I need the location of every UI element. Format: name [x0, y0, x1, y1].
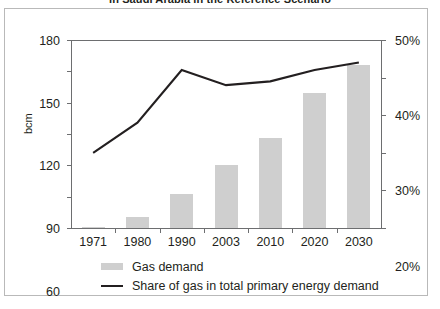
share-of-gas-line	[93, 63, 359, 153]
x-axis-tick-label: 2030	[345, 235, 373, 249]
chart-title: in Saudi Arabia in the Reference Scenari…	[0, 0, 440, 6]
legend-item-gas-demand: Gas demand	[101, 257, 401, 276]
plot-area: 0306090120150180 0%10%20%30%40%50% 19711…	[71, 40, 381, 228]
x-axis-tick-label: 2003	[212, 235, 240, 249]
x-axis-tick	[115, 228, 116, 233]
x-axis-line	[71, 228, 381, 229]
legend-label-share-of-gas: Share of gas in total primary energy dem…	[132, 279, 379, 293]
y-axis-right-tick: 40%	[381, 78, 386, 79]
x-axis-tick-label: 1980	[124, 235, 152, 249]
y-axis-right-tick: 30%	[381, 115, 386, 116]
chart-legend: Gas demand Share of gas in total primary…	[101, 257, 401, 295]
y-axis-left-tick-label: 120	[39, 159, 60, 173]
x-axis-tick	[204, 228, 205, 233]
y-axis-right-tick: 0%	[381, 228, 386, 229]
x-axis-tick-label: 1990	[168, 235, 196, 249]
y-axis-right-tick: 50%	[381, 40, 386, 41]
line-series-layer	[71, 40, 381, 228]
y-axis-title: bcm	[22, 113, 34, 134]
y-axis-left-tick-label: 150	[39, 97, 60, 111]
y-axis-left-tick-label: 60	[46, 285, 60, 299]
chart-panel: bcm 0306090120150180 0%10%20%30%40%50% 1…	[4, 8, 428, 296]
y-axis-left-tick: 0	[67, 228, 71, 229]
x-axis-tick-label: 2020	[301, 235, 329, 249]
y-axis-right-tick-label: 30%	[395, 184, 420, 198]
x-axis-tick	[160, 228, 161, 233]
x-axis-tick	[337, 228, 338, 233]
x-axis-tick-label: 1971	[79, 235, 107, 249]
x-axis-tick	[292, 228, 293, 233]
chart-figure: in Saudi Arabia in the Reference Scenari…	[0, 0, 440, 309]
plot-right-border	[381, 40, 382, 228]
x-axis-tick-label: 2010	[256, 235, 284, 249]
y-axis-right-tick: 10%	[381, 190, 386, 191]
x-axis-tick	[248, 228, 249, 233]
y-axis-right-tick: 20%	[381, 153, 386, 154]
y-axis-right-tick-label: 40%	[395, 109, 420, 123]
y-axis-right-tick-label: 50%	[395, 34, 420, 48]
legend-label-gas-demand: Gas demand	[132, 260, 204, 274]
legend-item-share-of-gas: Share of gas in total primary energy dem…	[101, 276, 401, 295]
y-axis-left-tick-label: 180	[39, 34, 60, 48]
legend-bar-swatch-icon	[101, 263, 123, 270]
y-axis-left-tick-label: 90	[46, 222, 60, 236]
legend-line-swatch-icon	[101, 285, 123, 287]
